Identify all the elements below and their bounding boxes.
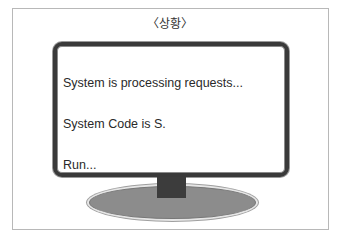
monitor-screen: System is processing requests... System … (53, 42, 289, 177)
terminal-line: Run... (63, 159, 250, 173)
monitor-stand-neck (157, 177, 186, 198)
terminal-line: System is processing requests... (63, 77, 250, 91)
situation-title: 〈상황〉 (0, 14, 340, 31)
terminal-line: System Code is S. (63, 118, 250, 132)
